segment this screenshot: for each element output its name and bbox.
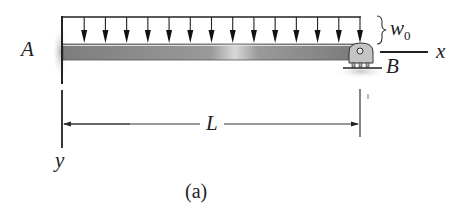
label-y: y (55, 148, 64, 173)
label-l: L (202, 111, 222, 136)
load-arrow-icon (81, 30, 87, 43)
load-arrow-icon (230, 30, 236, 43)
load-arrow-icon (336, 30, 342, 43)
label-x: x (436, 39, 445, 64)
label-w-subscript: 0 (404, 28, 411, 43)
load-arrow-icon (315, 30, 321, 43)
label-a: A (21, 37, 34, 62)
ground-shade (339, 68, 383, 80)
beam (63, 44, 359, 60)
load-arrow-icon (102, 30, 108, 43)
load-arrow-icon (145, 30, 151, 43)
load-arrow-icon (251, 30, 257, 43)
label-w: w (390, 16, 404, 40)
load-arrow-icon (209, 30, 215, 43)
load-arrows (81, 17, 363, 43)
load-arrow-icon (124, 30, 130, 43)
load-arrow-icon (187, 30, 193, 43)
label-b: B (386, 54, 399, 79)
pin-icon (357, 48, 363, 54)
load-arrow-icon (166, 30, 172, 43)
figure-caption: (a) (185, 180, 207, 203)
load-arrow-icon (293, 30, 299, 43)
load-arrow-icon (357, 30, 363, 43)
load-arrow-icon (272, 30, 278, 43)
label-w0: w0 (390, 16, 411, 44)
load-brace (377, 16, 386, 44)
